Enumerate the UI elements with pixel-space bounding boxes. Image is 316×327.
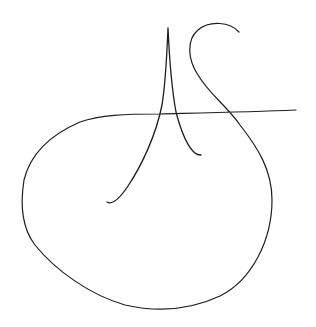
signature-drawing	[0, 0, 316, 327]
signature-canvas: Handwritten signature with initials rese…	[0, 0, 316, 327]
signature-stroke-s-loop	[22, 23, 296, 309]
